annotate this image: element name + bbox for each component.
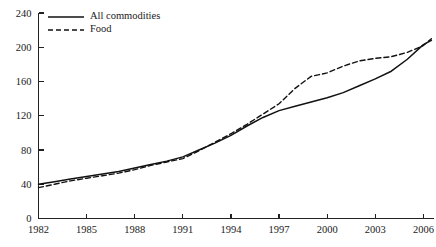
x-tick-label: 1997 <box>269 224 290 235</box>
x-tick-label: 1994 <box>220 224 242 235</box>
series-line-0 <box>39 40 432 184</box>
y-axis-ticks: 04080120160200240 <box>16 8 44 225</box>
legend-label-1: Food <box>90 23 112 34</box>
y-tick-label: 160 <box>16 76 32 87</box>
y-tick-label: 200 <box>16 42 32 53</box>
y-tick-label: 80 <box>21 145 32 156</box>
data-series-group <box>39 39 432 188</box>
x-tick-label: 1985 <box>76 224 97 235</box>
x-tick-label: 2000 <box>317 224 338 235</box>
y-tick-label: 240 <box>16 8 32 19</box>
legend-label-0: All commodities <box>90 10 160 21</box>
x-axis-ticks: 198219851988199119941997200020032006 <box>28 214 434 235</box>
chart-plot-area: 04080120160200240 1982198519881991199419… <box>0 0 436 247</box>
x-tick-label: 1982 <box>28 224 49 235</box>
x-tick-label: 2006 <box>413 224 434 235</box>
chart-legend: All commoditiesFood <box>48 10 160 34</box>
x-tick-label: 1991 <box>172 224 193 235</box>
x-tick-label: 1988 <box>124 224 145 235</box>
y-tick-label: 0 <box>26 213 31 224</box>
y-tick-label: 40 <box>21 179 32 190</box>
x-tick-label: 2003 <box>365 224 386 235</box>
series-line-1 <box>39 39 432 188</box>
y-tick-label: 120 <box>16 110 32 121</box>
line-chart: 04080120160200240 1982198519881991199419… <box>0 0 436 247</box>
